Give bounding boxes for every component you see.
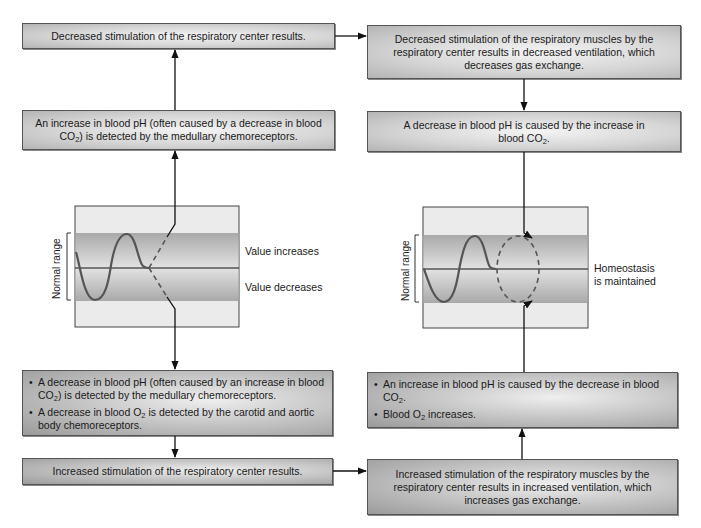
normal-range-label-right: Normal range — [400, 240, 411, 301]
label-line1: Homeostasis — [594, 262, 655, 274]
left-graph — [67, 206, 239, 327]
homeostasis-label: Homeostasis is maintained — [594, 262, 656, 288]
value-increases-label: Value increases — [245, 245, 319, 258]
right-graph — [415, 152, 588, 372]
label-line2: is maintained — [594, 275, 656, 287]
value-decreases-label: Value decreases — [245, 281, 322, 294]
normal-range-label-left: Normal range — [51, 238, 62, 299]
